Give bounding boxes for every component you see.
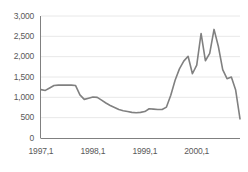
- y-tick-label: 2,000: [0, 51, 34, 61]
- data-series-line: [41, 29, 240, 118]
- y-tick-label: 1,500: [0, 72, 34, 82]
- x-tick-label: 2000,1: [175, 146, 219, 156]
- y-tick-label: 3,000: [0, 11, 34, 21]
- x-tick-label: 1997,1: [19, 146, 63, 156]
- x-tick-label: 1998,1: [71, 146, 115, 156]
- y-tick-label: 2,500: [0, 31, 34, 41]
- y-tick-label: 500: [0, 112, 34, 122]
- y-tick-label: 1,000: [0, 92, 34, 102]
- y-tick-label: 0: [0, 133, 34, 143]
- line-chart: 05001,0001,5002,0002,5003,000 1997,11998…: [0, 0, 248, 172]
- x-tick-label: 1999,1: [123, 146, 167, 156]
- gridlines: [41, 16, 240, 118]
